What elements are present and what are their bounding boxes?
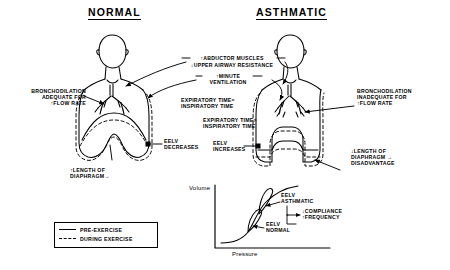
label-minute-ventilation: ↑MINUTE VENTILATION [200, 73, 256, 85]
legend-swatch-solid [59, 229, 76, 230]
pv-annotation-eelv-normal: EELV NORMAL [266, 221, 314, 233]
legend-swatch-dashed [59, 238, 76, 239]
label-right-diaphragm: ↓LENGTH OF DIAPHRAGM → DISADVANTAGE [351, 148, 447, 167]
label-normal-timing: EXPIRATORY TIME= INSPIRATORY TIME [181, 97, 257, 109]
label-left-bronchodilation: BRONCHODILATION ADEQUATE FOR ↑FLOW RATE [2, 88, 86, 107]
legend-item-pre-exercise: PRE-EXERCISE [55, 225, 157, 234]
label-right-eelv: EELV INCREASES [213, 140, 257, 152]
label-upper-airway-resistance: ↓UPPER AIRWAY RESISTANCE [178, 62, 286, 68]
normal-torso-drawing [76, 35, 152, 160]
pv-axis-label-volume: Volume [189, 185, 210, 191]
pv-annotation-compliance-frequency: ↓COMPLIANCE ↑FREQUENCY [302, 208, 364, 220]
label-left-eelv: EELV DECREASES [164, 138, 220, 150]
label-left-diaphragm: ↑LENGTH OF DIAPHRAGM→ [70, 167, 142, 179]
label-right-bronchodilation: BRONCHODILATION INADEQUATE FOR ↑FLOW RAT… [357, 88, 447, 107]
legend: PRE-EXERCISE DURING EXERCISE [54, 222, 158, 248]
label-asthmatic-timing: EXPIRATORY TIME> INSPIRATORY TIME [203, 117, 281, 129]
legend-item-during-exercise: DURING EXERCISE [55, 234, 157, 243]
heading-normal: NORMAL [88, 6, 141, 20]
heading-asthmatic: ASTHMATIC [256, 6, 327, 20]
pv-axis-label-pressure: Pressure [232, 251, 258, 257]
figure-canvas: NORMAL ASTHMATIC [0, 0, 450, 270]
label-abductor-muscles: ↑ABDUCTOR MUSCLES [186, 55, 278, 61]
legend-label-pre-exercise: PRE-EXERCISE [80, 227, 122, 233]
pv-annotation-eelv-asthmatic: EELV ASTHMATIC [281, 192, 339, 204]
legend-label-during-exercise: DURING EXERCISE [80, 236, 133, 242]
